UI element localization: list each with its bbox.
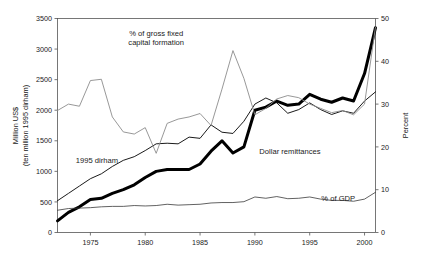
x-tick-label: 2000 <box>357 238 373 247</box>
y-tick-label: 2500 <box>36 75 52 84</box>
y-axis-title-line1: Million US$ <box>11 107 20 144</box>
series-line-2 <box>58 27 376 153</box>
y2-tick-label: 30 <box>381 100 389 109</box>
y-tick-label: 1500 <box>36 136 52 145</box>
x-tick-label: 1990 <box>247 238 263 247</box>
series-annotation-2-line1: % of gross fixed <box>129 29 183 38</box>
series-annotation-1: 1995 dirham <box>76 156 118 165</box>
y2-axis-title: Percent <box>401 113 410 138</box>
x-tick-label: 1980 <box>137 238 153 247</box>
y-tick-label: 1000 <box>36 167 52 176</box>
series-annotation-3: % of GDP <box>321 194 355 203</box>
x-tick-label: 1975 <box>82 238 98 247</box>
y2-tick-label: 50 <box>381 14 389 23</box>
y2-tick-label: 10 <box>381 185 389 194</box>
chart-figure: 0500100015002000250030003500010203040501… <box>0 0 421 270</box>
series-annotation-0: Dollar remittances <box>259 147 320 156</box>
y2-tick-label: 20 <box>381 143 389 152</box>
y-axis-title-line2: (ten million 1995 dirham) <box>21 85 30 166</box>
series-layer <box>58 27 376 221</box>
annotation-layer: Dollar remittances1995 dirham% of gross … <box>76 29 355 203</box>
y-tick-label: 0 <box>48 228 52 237</box>
y2-tick-label: 40 <box>381 57 389 66</box>
series-line-0 <box>58 28 376 221</box>
series-annotation-2-line2: capital formation <box>128 38 184 47</box>
y-tick-label: 500 <box>40 198 52 207</box>
y-tick-label: 3000 <box>36 45 52 54</box>
y-tick-label: 3500 <box>36 14 52 23</box>
y2-tick-label: 0 <box>381 228 385 237</box>
x-tick-label: 1985 <box>192 238 208 247</box>
y-tick-label: 2000 <box>36 106 52 115</box>
remittances-line-chart: 0500100015002000250030003500010203040501… <box>0 0 421 270</box>
x-tick-label: 1995 <box>302 238 318 247</box>
